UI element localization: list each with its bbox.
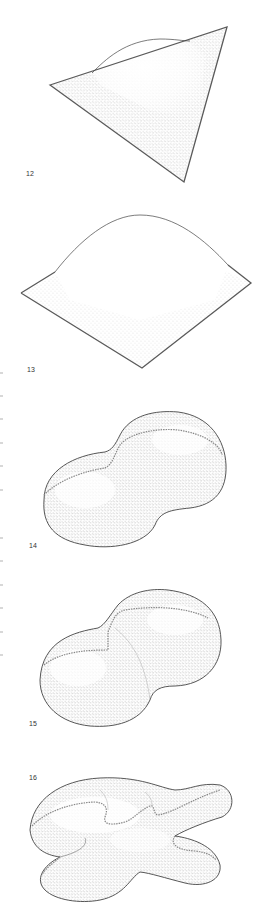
binding-mark [0,465,3,467]
figure-15-number: 15 [29,720,37,727]
figure-15-double-bubble [40,590,221,727]
figure-14-number: 14 [29,542,37,549]
figure-12-triangle [50,27,227,182]
figure-13-square [21,215,251,368]
figure-13-number: 13 [27,366,35,373]
figure-12-number: 12 [26,170,34,177]
membrane-figures [0,0,259,913]
binding-mark [0,418,3,420]
binding-mark [0,654,3,656]
binding-mark [0,560,3,562]
binding-mark [0,372,3,374]
binding-mark [0,489,3,491]
binding-mark [0,442,3,444]
figure-16-number: 16 [29,774,37,781]
figure-16-multi-lobe [30,778,232,902]
binding-mark [0,395,3,397]
binding-mark [0,607,3,609]
binding-mark [0,584,3,586]
binding-mark [0,537,3,539]
binding-mark [0,631,3,633]
figure-14-peanut [44,412,226,547]
